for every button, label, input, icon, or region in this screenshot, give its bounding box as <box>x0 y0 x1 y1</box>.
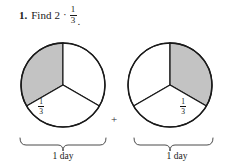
left-brace-caption: 1 day <box>20 152 106 162</box>
fraction-circles-diagram <box>0 34 225 168</box>
right-fraction-numerator: 1 <box>180 98 186 106</box>
left-pie <box>21 43 105 127</box>
problem-verb: Find <box>31 10 51 21</box>
plus-operator-icon: + <box>108 112 120 126</box>
problem-fraction-numerator: 1 <box>70 5 77 14</box>
left-sector-fraction-label: 1 3 <box>38 98 44 116</box>
problem-factor: 2 <box>54 10 60 21</box>
right-brace <box>134 138 213 151</box>
right-sector-fraction-label: 1 3 <box>180 98 186 116</box>
right-pie <box>128 43 212 127</box>
left-fraction-denominator: 3 <box>38 108 44 116</box>
problem-number: 1. <box>19 10 27 21</box>
left-brace <box>20 138 106 151</box>
problem-period: . <box>78 16 81 27</box>
problem-fraction-denominator: 3 <box>70 16 77 25</box>
problem-fraction: 1 3 <box>70 5 77 26</box>
fraction-model-figure: + 1 3 1 3 <box>0 34 225 168</box>
worksheet-problem-figure: 1. Find 2 · 1 3 . <box>0 0 225 168</box>
problem-statement: 1. Find 2 · 1 3 . <box>19 5 80 26</box>
right-fraction-denominator: 3 <box>180 108 186 116</box>
multiplication-dot-icon: · <box>63 9 67 20</box>
left-fraction-numerator: 1 <box>38 98 44 106</box>
right-brace-caption: 1 day <box>134 152 220 162</box>
